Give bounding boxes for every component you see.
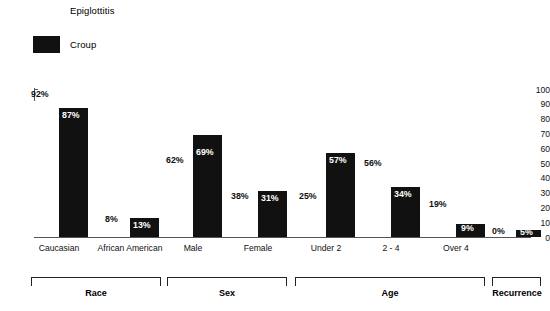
category-label-african-american: African American (96, 243, 164, 254)
bar-label-recurrence-croup: 5% (520, 227, 533, 237)
group-bracket-recurrence (492, 277, 541, 286)
category-label-over-4: Over 4 (421, 243, 491, 254)
bar-label-over-4-croup: 9% (461, 223, 474, 233)
bar-label-female-epiglottitis: 38% (231, 191, 249, 201)
group-bracket-race (31, 277, 161, 286)
bar-caucasian-epiglottitis[interactable] (30, 101, 59, 237)
bar-under-2-epiglottitis[interactable] (297, 200, 326, 237)
bar-label-over-4-epiglottitis: 19% (429, 199, 447, 209)
group-bracket-sex (167, 277, 287, 286)
bar-caucasian-croup[interactable] (59, 108, 88, 237)
bar-label-recurrence-epiglottitis: 0% (492, 226, 505, 236)
category-label-under-2: Under 2 (291, 243, 361, 254)
bar-label-african-american-croup: 13% (133, 220, 151, 230)
group-label-recurrence: Recurrence (487, 288, 547, 298)
group-label-sex: Sex (167, 288, 287, 298)
bar-label-2-4-croup: 34% (394, 189, 412, 199)
category-label-female: Female (223, 243, 293, 254)
bar-female-epiglottitis[interactable] (229, 181, 258, 237)
group-label-age: Age (295, 288, 485, 298)
y-tick-mark (34, 237, 38, 238)
bar-label-caucasian-croup: 87% (62, 110, 80, 120)
bar-label-african-american-epiglottitis: 8% (105, 214, 118, 224)
bar-under-2-croup[interactable] (326, 153, 355, 237)
bar-label-male-epiglottitis: 62% (166, 155, 184, 165)
bar-label-under-2-epiglottitis: 25% (299, 191, 317, 201)
bars-layer: 92% 87% 8% 13% 62% 69% 38% 31% 25% 57% (0, 0, 550, 237)
category-label-2-4: 2 - 4 (356, 243, 426, 254)
bar-label-2-4-epiglottitis: 56% (364, 158, 382, 168)
group-bracket-age (295, 277, 485, 286)
x-axis-line (34, 237, 531, 238)
bar-african-american-epiglottitis[interactable] (101, 225, 130, 237)
bar-over-4-epiglottitis[interactable] (427, 209, 456, 237)
group-label-race: Race (31, 288, 161, 298)
category-label-caucasian: Caucasian (24, 243, 94, 254)
bar-label-under-2-croup: 57% (329, 155, 347, 165)
bar-label-caucasian-epiglottitis: 92% (31, 89, 49, 99)
bar-label-female-croup: 31% (261, 193, 279, 203)
plot-area: 100 90 80 70 60 50 40 30 20 10 0 92% 87% (0, 0, 550, 311)
chart-page: Epiglottitis Croup 100 90 80 70 60 50 40… (0, 0, 550, 311)
bar-label-male-croup: 69% (196, 147, 214, 157)
category-label-male: Male (158, 243, 228, 254)
